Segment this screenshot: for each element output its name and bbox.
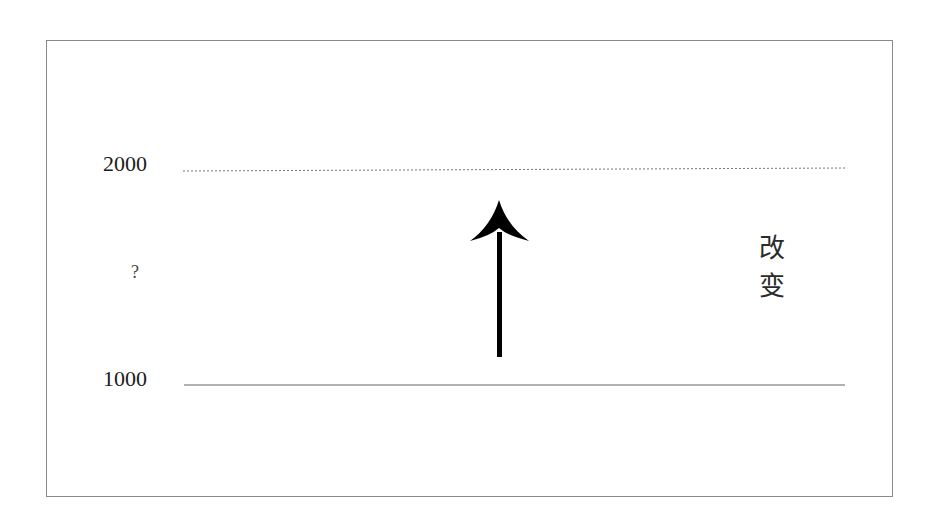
change-label: 改 变 [757, 229, 787, 305]
upper-level-dotted-line [183, 168, 845, 171]
up-arrow-icon [470, 200, 529, 357]
lower-level-label: 1000 [103, 366, 147, 392]
arrow-shaft [497, 232, 502, 357]
change-label-char-1: 改 [757, 229, 787, 267]
diagram-canvas [0, 0, 943, 531]
change-label-char-2: 变 [757, 267, 787, 305]
unknown-value-label: ? [131, 262, 139, 283]
upper-level-label: 2000 [103, 151, 147, 177]
